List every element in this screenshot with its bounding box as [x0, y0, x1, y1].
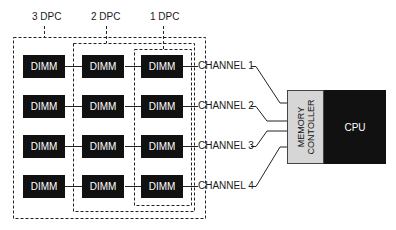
dimm-slot: DIMM [141, 95, 183, 118]
memory-controller-line2: CONTOLLER [306, 100, 316, 155]
dimm-slot: DIMM [141, 175, 183, 198]
channel-label: CHANNEL 1 [198, 61, 254, 71]
memory-controller-line1: MEMORY [296, 100, 306, 155]
dimm-slot: DIMM [82, 55, 124, 78]
dimm-slot: DIMM [141, 55, 183, 78]
group-label-2dpc: 2 DPC [91, 12, 120, 22]
group-label-3dpc: 3 DPC [32, 12, 61, 22]
dimm-slot: DIMM [23, 55, 65, 78]
memory-controller-box: MEMORY CONTOLLER [287, 90, 324, 164]
dimm-slot: DIMM [82, 135, 124, 158]
memory-controller-label: MEMORY CONTOLLER [296, 100, 316, 155]
channel-label: CHANNEL 2 [198, 101, 254, 111]
channel-label: CHANNEL 3 [198, 141, 254, 151]
dimm-slot: DIMM [82, 175, 124, 198]
dimm-slot: DIMM [23, 135, 65, 158]
dimm-slot: DIMM [23, 175, 65, 198]
dimm-slot: DIMM [23, 95, 65, 118]
channel-label: CHANNEL 4 [198, 181, 254, 191]
group-label-1dpc: 1 DPC [150, 12, 179, 22]
cpu-box: CPU [324, 90, 386, 164]
dimm-slot: DIMM [141, 135, 183, 158]
dimm-slot: DIMM [82, 95, 124, 118]
